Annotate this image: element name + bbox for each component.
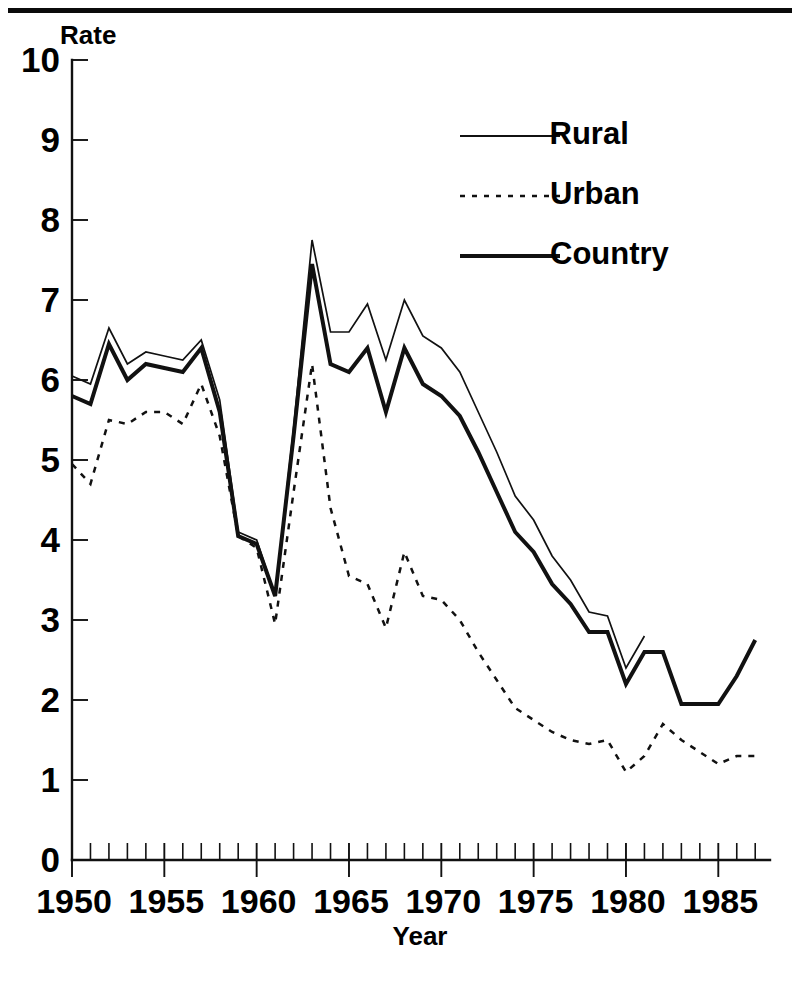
y-tick-label: 8 (41, 200, 60, 239)
x-tick-label: 1975 (498, 882, 574, 920)
x-tick-label: 1965 (313, 882, 389, 920)
y-tick-label: 0 (41, 840, 60, 879)
x-minor-tick-group (90, 843, 755, 860)
y-axis-title: Rate (60, 20, 116, 50)
x-tick-label: 1970 (405, 882, 481, 920)
x-tick-label: 1980 (590, 882, 666, 920)
y-tick-label: 5 (41, 440, 60, 479)
x-tick-label-group: 19501955196019651970197519801985 (36, 882, 758, 920)
x-tick-label: 1950 (36, 882, 112, 920)
y-tick-label: 7 (41, 280, 60, 319)
series-line-country (72, 264, 755, 704)
y-tick-group (72, 60, 88, 860)
y-tick-label: 3 (41, 600, 60, 639)
y-tick-label: 10 (21, 40, 60, 79)
x-tick-label: 1960 (221, 882, 297, 920)
y-tick-label-group: 012345678910 (21, 40, 60, 879)
y-tick-label: 4 (41, 520, 61, 559)
x-axis-title: Year (393, 921, 448, 951)
y-tick-label: 1 (41, 760, 60, 799)
x-tick-label: 1955 (129, 882, 205, 920)
legend-label-urban: Urban (550, 176, 640, 211)
legend-label-country: Country (550, 236, 670, 271)
series-line-rural (72, 240, 644, 668)
line-chart: 012345678910 195019551960196519701975198… (0, 0, 798, 981)
legend-label-rural: Rural (550, 116, 629, 151)
y-tick-label: 9 (41, 120, 60, 159)
series-line-urban (72, 364, 755, 772)
figure-container: 012345678910 195019551960196519701975198… (0, 0, 798, 981)
legend: Rural Urban Country (460, 116, 670, 271)
y-tick-label: 2 (41, 680, 60, 719)
y-tick-label: 6 (41, 360, 60, 399)
x-tick-label: 1985 (682, 882, 758, 920)
